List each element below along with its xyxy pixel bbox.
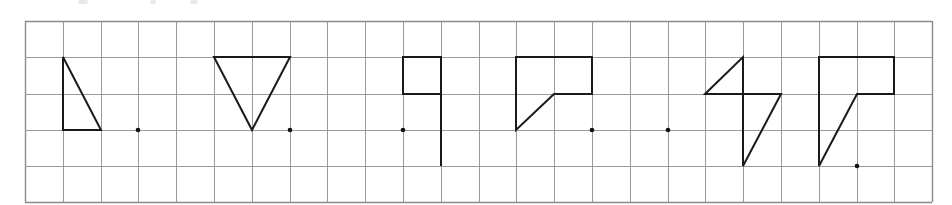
figure-5-lightning xyxy=(705,57,781,166)
figures xyxy=(63,57,894,166)
figure-6-tall-l-shape xyxy=(819,57,894,166)
reference-dot xyxy=(855,164,860,169)
figure-3-flag xyxy=(403,57,441,166)
grid-lines xyxy=(25,21,933,203)
reference-dot xyxy=(590,128,595,133)
reference-dot xyxy=(401,128,406,133)
grid-diagram xyxy=(0,0,952,205)
reference-dot xyxy=(136,128,141,133)
reference-dot xyxy=(288,128,293,133)
figure-1-right-triangle xyxy=(63,57,101,130)
reference-dot xyxy=(666,128,671,133)
reference-dots xyxy=(136,128,860,169)
